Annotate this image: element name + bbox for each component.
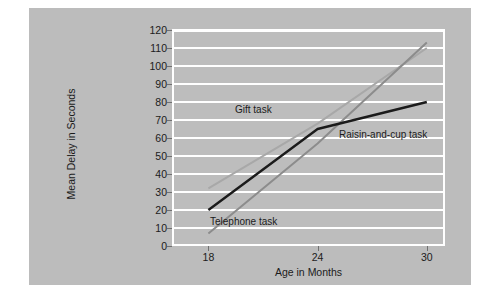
x-axis-tick-label: 18 xyxy=(203,251,215,263)
y-axis-tick-label: 20 xyxy=(155,204,167,216)
x-axis-tick-label: 30 xyxy=(421,251,433,263)
y-axis-tick-mark xyxy=(167,246,172,247)
series-line xyxy=(208,102,426,210)
chart-figure: 0102030405060708090100110120 182430 Mean… xyxy=(29,8,471,285)
x-axis-tick-mark xyxy=(427,246,428,251)
y-axis-tick-label: 100 xyxy=(149,60,167,72)
y-axis-title: Mean Delay in Seconds xyxy=(65,74,77,214)
series-label: Gift task xyxy=(235,104,272,115)
y-axis-tick-label: 110 xyxy=(150,42,167,54)
x-axis-tick-labels: 182430 xyxy=(29,251,471,267)
x-axis-tick-mark xyxy=(208,246,209,251)
y-axis-tick-label: 90 xyxy=(155,78,167,90)
y-axis-tick-label: 50 xyxy=(155,150,167,162)
x-axis-title: Age in Months xyxy=(172,266,445,278)
x-axis-tick-label: 24 xyxy=(312,251,324,263)
x-axis-tick-mark xyxy=(318,246,319,251)
y-axis-tick-label: 80 xyxy=(155,96,167,108)
y-axis-tick-label: 30 xyxy=(155,186,167,198)
y-axis-tick-label: 60 xyxy=(155,132,167,144)
y-axis-tick-label: 120 xyxy=(149,24,167,36)
y-axis-tick-labels: 0102030405060708090100110120 xyxy=(133,30,167,246)
series-label: Telephone task xyxy=(210,216,277,227)
series-line xyxy=(208,48,426,188)
y-axis-tick-label: 40 xyxy=(155,168,167,180)
series-label: Raisin-and-cup task xyxy=(339,129,427,140)
y-axis-tick-label: 10 xyxy=(155,222,167,234)
y-axis-tick-label: 70 xyxy=(155,114,167,126)
